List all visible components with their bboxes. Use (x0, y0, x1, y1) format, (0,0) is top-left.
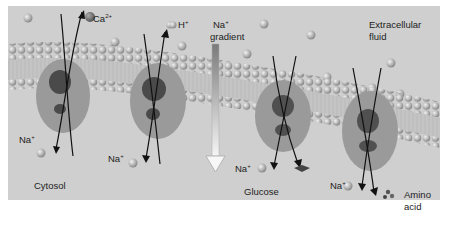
label-sodium-3: Na+ (235, 163, 251, 174)
label-extracellular-line2: fluid (369, 31, 386, 42)
label-sodium-4: Na+ (330, 180, 346, 191)
transporter-h-antiporter (129, 22, 187, 168)
label-extracellular-line1: Extracellular (369, 19, 421, 30)
label-calcium-ion: Ca2+ (93, 13, 112, 24)
membrane-transport-diagram: Ca2+ H+ Na+ gradient Extracellular fluid… (8, 6, 440, 200)
label-sodium-1: Na+ (19, 134, 35, 145)
label-sodium-2: Na+ (108, 153, 124, 164)
amino-acid-molecule (383, 190, 394, 199)
label-amino-line2: acid (404, 201, 421, 212)
label-na-gradient-ion: Na+ (213, 19, 229, 30)
truncated-caption (88, 226, 168, 230)
label-gradient: gradient (210, 31, 244, 42)
label-hydrogen-ion: H+ (178, 19, 188, 30)
transporter-ca-antiporter (36, 10, 95, 158)
label-amino-line1: Amino (404, 189, 431, 200)
label-cytosol: Cytosol (34, 180, 66, 191)
label-glucose: Glucose (244, 186, 279, 197)
